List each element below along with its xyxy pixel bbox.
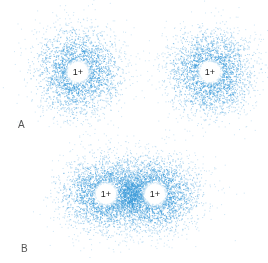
hydrogen-bonding-diagram: 1+ 1+ 1+ 1+ A B bbox=[0, 0, 268, 263]
panel-label-b: B bbox=[21, 243, 28, 254]
nucleus-a-left: 1+ bbox=[68, 62, 88, 82]
electron-cloud-canvas bbox=[0, 0, 268, 263]
panel-label-a: A bbox=[18, 119, 25, 130]
nucleus-b-right: 1+ bbox=[145, 184, 165, 204]
nucleus-b-left: 1+ bbox=[96, 184, 116, 204]
nucleus-a-right: 1+ bbox=[200, 62, 220, 82]
